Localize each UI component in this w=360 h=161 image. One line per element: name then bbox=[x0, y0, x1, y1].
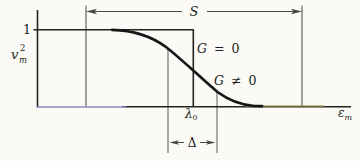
x-axis-title: ε m bbox=[338, 106, 353, 122]
y-axis-title-superscript: 2 bbox=[20, 43, 25, 53]
g-zero-operator: = bbox=[214, 41, 224, 56]
s-span-arrow: S bbox=[86, 4, 302, 19]
x-axis-title-subscript: m bbox=[345, 113, 353, 122]
lambda-base: λ bbox=[184, 107, 193, 121]
x-axis-title-base: ε bbox=[338, 106, 344, 120]
g-zero-symbol: G bbox=[197, 41, 207, 56]
s-span-label: S bbox=[190, 4, 199, 19]
lambda-zero-tick-label: λ 0 bbox=[184, 107, 198, 123]
y-axis-tick-one-label: 1 bbox=[23, 22, 31, 37]
g-nonzero-value: 0 bbox=[248, 73, 256, 88]
y-axis-title-base: v bbox=[11, 47, 19, 62]
sigmoid-curve-g-nonzero bbox=[112, 30, 262, 106]
g-nonzero-symbol: G bbox=[214, 73, 224, 88]
g-nonzero-label: G ≠ 0 bbox=[214, 73, 256, 88]
lambda-subscript: 0 bbox=[193, 113, 198, 122]
g-zero-value: 0 bbox=[231, 41, 239, 56]
figure-canvas: S Δ G = 0 G ≠ 0 1 v m 2 λ bbox=[0, 0, 360, 161]
g-nonzero-operator: ≠ bbox=[231, 73, 241, 88]
y-axis-title: v m 2 bbox=[11, 43, 27, 65]
g-zero-label: G = 0 bbox=[197, 41, 239, 56]
diagram-svg: S Δ G = 0 G ≠ 0 1 v m 2 λ bbox=[0, 0, 360, 161]
delta-span-arrow: Δ bbox=[170, 136, 216, 150]
delta-span-label: Δ bbox=[188, 136, 197, 150]
step-curve-g-zero bbox=[34, 30, 194, 107]
y-axis-title-subscript: m bbox=[19, 55, 27, 65]
